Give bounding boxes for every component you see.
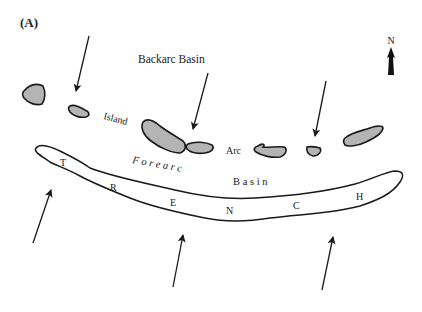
north-label: N [387, 35, 394, 46]
arrow-up-icon [33, 190, 51, 243]
trench-letter: N [226, 205, 233, 216]
island-3 [142, 120, 185, 153]
trench-letter: H [356, 191, 363, 202]
trench-letter: T [60, 157, 66, 168]
trench-letter: E [170, 197, 176, 208]
island-label: Island [103, 110, 129, 127]
arrow-down-icon [193, 73, 208, 129]
arrow-up-icon [322, 237, 333, 290]
forearc-label: F o r e a r c [131, 154, 184, 174]
island-2 [69, 105, 89, 117]
island-5 [254, 144, 286, 157]
trench-letter: C [293, 200, 300, 211]
island-6 [307, 147, 321, 156]
arc-label: Arc [226, 145, 242, 156]
backarc-basin-label: Backarc Basin [138, 53, 205, 65]
island-7 [344, 126, 384, 146]
island-arc [23, 84, 383, 157]
basin-label: B a s i n [233, 176, 268, 187]
trench-letter: R [110, 182, 117, 193]
arrow-down-icon [315, 81, 326, 136]
north-arrow-icon: N [387, 35, 395, 75]
arrow-up-icon [173, 235, 183, 287]
panel-label: (A) [20, 15, 38, 30]
island-1 [23, 84, 45, 104]
arrow-down-icon [76, 36, 89, 91]
trench-label: T R E N C H [60, 157, 363, 216]
subduction-diagram: (A) N Backarc Basin Island Arc F o r e a… [0, 0, 422, 312]
trench-outline [35, 145, 402, 221]
diagram-svg: (A) N Backarc Basin Island Arc F o r e a… [0, 0, 422, 312]
island-4 [186, 142, 213, 153]
